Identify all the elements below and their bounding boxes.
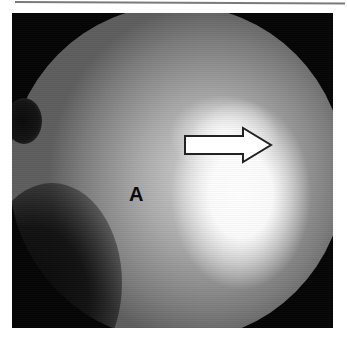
medical-image-frame: A: [12, 13, 333, 328]
annotation-label-a: A: [129, 183, 143, 206]
top-divider-rule: [15, 1, 345, 4]
arrow-right-icon: [183, 126, 273, 164]
